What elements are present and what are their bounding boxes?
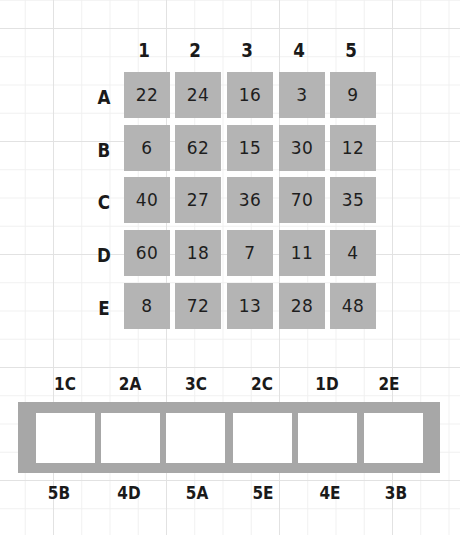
cell-value: 9 <box>347 85 358 105</box>
answer-box-6[interactable] <box>364 413 423 463</box>
answer-box-1[interactable] <box>36 413 95 463</box>
column-header-1: 1 <box>124 39 164 61</box>
answer-box-3[interactable] <box>166 413 225 463</box>
grid-cell-a3: 16 <box>227 72 273 118</box>
cell-value: 12 <box>342 138 365 158</box>
bottom-clue-5: 4E <box>303 483 357 503</box>
grid-cell-e5: 48 <box>330 283 376 329</box>
grid-cell-c3: 36 <box>227 177 273 223</box>
grid-cell-a2: 24 <box>175 72 221 118</box>
bottom-clue-3: 5A <box>170 483 224 503</box>
cell-value: 27 <box>187 190 210 210</box>
grid-cell-b2: 62 <box>175 125 221 171</box>
grid-cell-d4: 11 <box>279 230 325 276</box>
grid-cell-b4: 30 <box>279 125 325 171</box>
cell-value: 15 <box>239 138 262 158</box>
bottom-clue-6: 3B <box>369 483 423 503</box>
cell-value: 3 <box>296 85 307 105</box>
column-header-2: 2 <box>175 39 215 61</box>
cell-value: 11 <box>291 243 314 263</box>
grid-cell-b3: 15 <box>227 125 273 171</box>
bottom-clue-1: 5B <box>32 483 86 503</box>
grid-cell-a4: 3 <box>279 72 325 118</box>
grid-cell-a5: 9 <box>330 72 376 118</box>
cell-value: 40 <box>136 190 159 210</box>
cell-value: 6 <box>141 138 152 158</box>
grid-cell-c5: 35 <box>330 177 376 223</box>
cell-value: 35 <box>342 190 365 210</box>
answer-strip <box>18 402 440 473</box>
top-clue-6: 2E <box>362 374 416 394</box>
answer-box-4[interactable] <box>233 413 292 463</box>
row-header-b: B <box>93 139 114 161</box>
cell-value: 13 <box>239 296 262 316</box>
grid-cell-a1: 22 <box>124 72 170 118</box>
row-header-c: C <box>93 191 114 213</box>
grid-cell-e2: 72 <box>175 283 221 329</box>
cell-value: 30 <box>291 138 314 158</box>
grid-cell-e1: 8 <box>124 283 170 329</box>
cell-value: 18 <box>187 243 210 263</box>
top-clue-5: 1D <box>300 374 354 394</box>
cell-value: 8 <box>141 296 152 316</box>
grid-cell-d2: 18 <box>175 230 221 276</box>
cell-value: 62 <box>187 138 210 158</box>
cell-value: 24 <box>187 85 210 105</box>
grid-cell-c4: 70 <box>279 177 325 223</box>
bottom-clue-4: 5E <box>236 483 290 503</box>
column-header-5: 5 <box>331 39 371 61</box>
row-header-e: E <box>93 297 114 319</box>
cell-value: 48 <box>342 296 365 316</box>
answer-box-5[interactable] <box>298 413 357 463</box>
cell-value: 4 <box>347 243 358 263</box>
top-clue-4: 2C <box>235 374 289 394</box>
top-clue-2: 2A <box>103 374 157 394</box>
cell-value: 36 <box>239 190 262 210</box>
top-clue-3: 3C <box>169 374 223 394</box>
grid-cell-d3: 7 <box>227 230 273 276</box>
grid-cell-c2: 27 <box>175 177 221 223</box>
grid-cell-d5: 4 <box>330 230 376 276</box>
bottom-clue-2: 4D <box>102 483 156 503</box>
grid-cell-e3: 13 <box>227 283 273 329</box>
cell-value: 22 <box>136 85 159 105</box>
column-header-3: 3 <box>227 39 267 61</box>
answer-box-2[interactable] <box>101 413 160 463</box>
grid-cell-d1: 60 <box>124 230 170 276</box>
cell-value: 60 <box>136 243 159 263</box>
row-header-d: D <box>93 244 114 266</box>
row-header-a: A <box>93 86 114 108</box>
grid-cell-c1: 40 <box>124 177 170 223</box>
cell-value: 16 <box>239 85 262 105</box>
grid-cell-b1: 6 <box>124 125 170 171</box>
cell-value: 7 <box>244 243 255 263</box>
column-header-4: 4 <box>279 39 319 61</box>
cell-value: 28 <box>291 296 314 316</box>
grid-cell-b5: 12 <box>330 125 376 171</box>
cell-value: 72 <box>187 296 210 316</box>
top-clue-1: 1C <box>38 374 92 394</box>
grid-cell-e4: 28 <box>279 283 325 329</box>
cell-value: 70 <box>291 190 314 210</box>
